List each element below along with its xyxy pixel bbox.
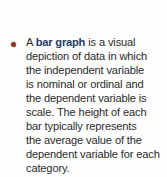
text-line-10: category. (26, 162, 167, 176)
text-line-2: depiction of data in which (26, 50, 167, 64)
term-bar-graph: bar graph (36, 36, 85, 48)
bullet-dot-icon (11, 42, 16, 47)
definition-callout: A bar graph is a visual depiction of dat… (0, 0, 167, 177)
text-line-1: A bar graph is a visual (26, 36, 167, 50)
text-line-7: bar typically represents (26, 120, 167, 134)
text-line-3: the independent variable (26, 64, 167, 78)
line-1-suffix: is a visual (85, 36, 135, 48)
text-line-9: dependent variable for each (26, 148, 167, 162)
text-line-6: scale. The height of each (26, 106, 167, 120)
scan-artifact-overlay (0, 0, 167, 30)
line-1-prefix: A (26, 36, 36, 48)
text-line-4: is nominal or ordinal and (26, 78, 167, 92)
text-line-5: the dependent variable is (26, 92, 167, 106)
text-line-8: the average value of the (26, 134, 167, 148)
definition-paragraph: A bar graph is a visual depiction of dat… (26, 36, 167, 176)
